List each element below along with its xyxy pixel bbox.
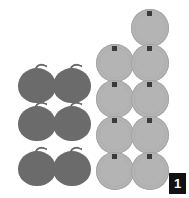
disc-shape [131, 44, 169, 82]
disc-stem-nub-icon [147, 118, 152, 123]
disc-stem-nub-icon [112, 118, 117, 123]
apple-shape [18, 101, 56, 141]
disc-stem-nub-icon [147, 11, 152, 16]
disc-inner-ring [99, 47, 131, 79]
disc-inner-ring [134, 47, 166, 79]
disc-inner-ring [134, 119, 166, 151]
disc-stem-nub-icon [147, 154, 152, 159]
status-badge: 1 [169, 173, 186, 194]
apple-shape [18, 63, 56, 103]
apple-shape [53, 146, 91, 186]
disc-inner-ring [99, 83, 131, 115]
apple-shape [53, 101, 91, 141]
disc-stem-nub-icon [112, 82, 117, 87]
disc-inner-ring [99, 155, 131, 187]
disc-shape [96, 44, 134, 82]
disc-shape [96, 116, 134, 154]
disc-shape [131, 152, 169, 190]
apple-shape [18, 146, 56, 186]
disc-shape [96, 80, 134, 118]
apple-shape [53, 63, 91, 103]
disc-shape [131, 80, 169, 118]
disc-shape [131, 116, 169, 154]
disc-inner-ring [134, 83, 166, 115]
disc-shape [96, 152, 134, 190]
disc-stem-nub-icon [147, 82, 152, 87]
disc-stem-nub-icon [112, 154, 117, 159]
disc-inner-ring [99, 119, 131, 151]
disc-stem-nub-icon [147, 46, 152, 51]
disc-inner-ring [134, 155, 166, 187]
disc-stem-nub-icon [112, 46, 117, 51]
disc-shape [131, 9, 169, 47]
disc-inner-ring [134, 12, 166, 44]
image-canvas: 1 [0, 0, 189, 198]
